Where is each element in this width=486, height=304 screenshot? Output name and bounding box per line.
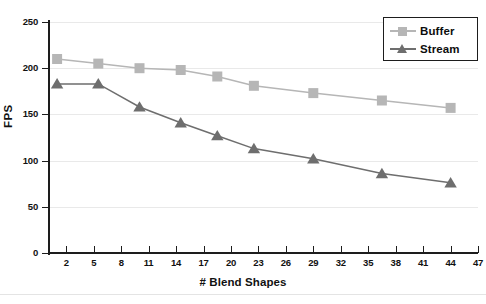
data-point-buffer [176,65,186,75]
chart-screenshot: 050100150200250 258111417202326293235384… [0,0,486,304]
series-line-stream [57,84,451,183]
legend-label-stream: Stream [420,43,460,55]
data-point-buffer [212,72,222,82]
data-point-stream [175,117,187,128]
data-point-stream [211,130,223,140]
data-point-stream [133,101,145,111]
data-point-buffer [52,54,62,64]
legend-entry-stream: Stream [390,40,477,58]
data-point-buffer [249,81,259,91]
data-point-buffer [308,88,318,98]
data-point-buffer [377,96,387,106]
data-point-buffer [93,59,103,69]
data-point-stream [248,143,260,153]
data-point-buffer [446,103,456,113]
legend-marker-square-icon [390,24,416,38]
legend-marker-triangle-icon [390,42,416,56]
scan-artifact-rule [0,294,486,295]
chart-legend: Buffer Stream [383,17,478,61]
legend-entry-buffer: Buffer [390,22,477,40]
legend-label-buffer: Buffer [420,25,454,37]
data-point-buffer [135,63,145,73]
